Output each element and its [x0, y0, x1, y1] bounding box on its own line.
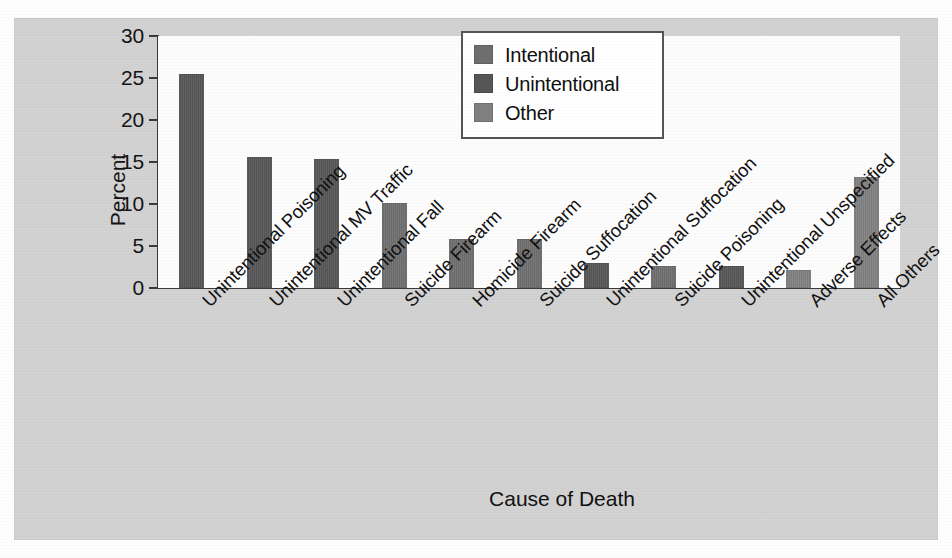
- y-axis-tick-label: 25: [88, 67, 144, 88]
- y-axis-tick-mark: [149, 203, 157, 205]
- x-axis-category-labels: Unintentional PoisoningUnintentional MV …: [0, 292, 952, 482]
- y-axis-tick-mark: [149, 119, 157, 121]
- x-axis-title-text: Cause of Death: [489, 487, 635, 510]
- y-axis-tick-mark: [149, 245, 157, 247]
- legend-item-unintentional: Unintentional: [474, 70, 619, 97]
- legend-swatch-icon: [474, 74, 493, 93]
- y-axis-tick-label: 15: [88, 151, 144, 172]
- y-axis-tick-mark: [149, 287, 157, 289]
- chart-page: Percent 302520151050 Unintentional Poiso…: [0, 0, 952, 558]
- bar: [179, 74, 204, 288]
- y-axis-title-holder: Percent: [36, 60, 76, 260]
- legend-label: Unintentional: [505, 74, 619, 94]
- legend-swatch-icon: [474, 103, 493, 122]
- legend-item-other: Other: [474, 99, 554, 126]
- y-axis-tick-mark: [149, 77, 157, 79]
- y-axis-tick-label: 30: [88, 25, 144, 46]
- y-axis-tick-mark: [149, 161, 157, 163]
- legend-swatch-icon: [474, 45, 493, 64]
- legend-label: Other: [505, 103, 554, 123]
- y-axis-tick-label: 5: [88, 235, 144, 256]
- x-axis-title: Cause of Death: [0, 487, 952, 511]
- y-axis-tick-label: 10: [88, 193, 144, 214]
- y-axis-tick-mark: [149, 35, 157, 37]
- y-axis-tick-label: 20: [88, 109, 144, 130]
- legend-label: Intentional: [505, 45, 595, 65]
- chart-legend: IntentionalUnintentionalOther: [461, 31, 664, 139]
- legend-item-intentional: Intentional: [474, 41, 595, 68]
